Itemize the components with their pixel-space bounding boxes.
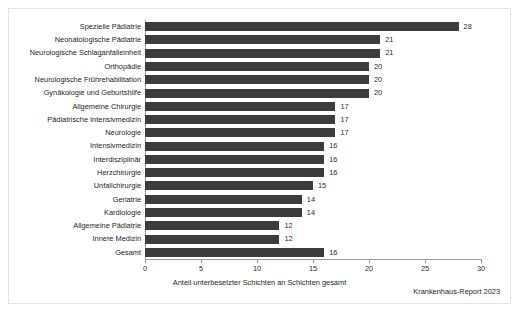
- bar-value-label: 21: [385, 49, 393, 56]
- x-axis-tick-label: 5: [199, 265, 203, 272]
- x-axis-tick-label: 20: [365, 265, 373, 272]
- x-axis-tick-label: 10: [253, 265, 261, 272]
- chart-figure: Spezielle Pädiatrie28Neonatologische Päd…: [8, 8, 511, 304]
- x-axis-tick: [257, 259, 258, 263]
- category-label: Gynäkologie und Geburtshilfe: [44, 89, 141, 96]
- category-label: Gesamt: [115, 249, 141, 256]
- category-label: Allgemeine Pädiatrie: [73, 222, 141, 229]
- bar-row: Spezielle Pädiatrie28: [145, 20, 481, 33]
- bar-value-label: 16: [329, 169, 337, 176]
- bar-row: Geriatrie14: [145, 193, 481, 206]
- x-axis-label: Anteil unterbesetzter Schichten an Schic…: [9, 279, 510, 286]
- category-label: Herzchirurgie: [97, 169, 141, 176]
- bar: [145, 128, 335, 137]
- bar-value-label: 14: [307, 209, 315, 216]
- category-label: Unfallchirurgie: [94, 182, 141, 189]
- x-axis-tick: [425, 259, 426, 263]
- bar-value-label: 17: [340, 116, 348, 123]
- bar-value-label: 12: [284, 235, 292, 242]
- x-axis-tick-label: 30: [477, 265, 485, 272]
- bar-value-label: 28: [464, 23, 472, 30]
- bar: [145, 181, 313, 190]
- bar: [145, 75, 369, 84]
- bar-row: Unfallchirurgie15: [145, 179, 481, 192]
- x-axis-tick-label: 0: [143, 265, 147, 272]
- bar-row: Intensivmedizin16: [145, 140, 481, 153]
- category-label: Kardiologie: [104, 209, 141, 216]
- category-label: Intensivmedizin: [90, 142, 141, 149]
- bar-row: Herzchirurgie16: [145, 166, 481, 179]
- category-label: Interdisziplinär: [93, 156, 141, 163]
- bar-row: Interdisziplinär16: [145, 153, 481, 166]
- bar-value-label: 17: [340, 129, 348, 136]
- bar: [145, 168, 324, 177]
- bar: [145, 35, 380, 44]
- bar-value-label: 21: [385, 36, 393, 43]
- category-label: Neurologische Schlaganfalleinheit: [30, 49, 141, 56]
- x-axis-tick: [481, 259, 482, 263]
- bar-value-label: 20: [374, 76, 382, 83]
- bar-row: Kardiologie14: [145, 206, 481, 219]
- category-label: Neurologische Frührehabilitation: [35, 76, 141, 83]
- x-axis-tick: [201, 259, 202, 263]
- bar-value-label: 16: [329, 142, 337, 149]
- bar: [145, 102, 335, 111]
- bar: [145, 142, 324, 151]
- bar-row: Allgemeine Chirurgie17: [145, 100, 481, 113]
- x-axis-tick-label: 25: [421, 265, 429, 272]
- bar-row: Innere Medizin12: [145, 232, 481, 245]
- bar: [145, 248, 324, 257]
- bar-row: Orthopädie20: [145, 60, 481, 73]
- bar: [145, 62, 369, 71]
- bar-row: Pädiatrische Intensivmedizin17: [145, 113, 481, 126]
- bar-row: Allgemeine Pädiatrie12: [145, 219, 481, 232]
- bar-row: Neonatologische Pädiatrie21: [145, 33, 481, 46]
- bar: [145, 89, 369, 98]
- bar: [145, 235, 279, 244]
- bar-value-label: 20: [374, 63, 382, 70]
- category-label: Orthopädie: [104, 63, 141, 70]
- bar-row: Gynäkologie und Geburtshilfe20: [145, 86, 481, 99]
- plot-area: Spezielle Pädiatrie28Neonatologische Päd…: [145, 20, 481, 259]
- bar: [145, 115, 335, 124]
- bar-value-label: 16: [329, 249, 337, 256]
- bar: [145, 22, 459, 31]
- bar-row: Neurologische Frührehabilitation20: [145, 73, 481, 86]
- bar-value-label: 20: [374, 89, 382, 96]
- category-label: Innere Medizin: [93, 235, 141, 242]
- bar: [145, 221, 279, 230]
- x-axis-tick-label: 15: [309, 265, 317, 272]
- bar: [145, 208, 302, 217]
- category-label: Geriatrie: [113, 196, 141, 203]
- x-axis-tick: [145, 259, 146, 263]
- category-label: Pädiatrische Intensivmedizin: [47, 116, 141, 123]
- bar-value-label: 16: [329, 156, 337, 163]
- bar-value-label: 15: [318, 182, 326, 189]
- category-label: Allgemeine Chirurgie: [72, 103, 141, 110]
- bar: [145, 155, 324, 164]
- bar-row: Neurologische Schlaganfalleinheit21: [145, 47, 481, 60]
- category-label: Neurologie: [105, 129, 141, 136]
- x-axis-tick: [313, 259, 314, 263]
- bar-value-label: 17: [340, 103, 348, 110]
- bar-row: Neurologie17: [145, 126, 481, 139]
- bar-value-label: 12: [284, 222, 292, 229]
- category-label: Neonatologische Pädiatrie: [55, 36, 141, 43]
- source-note: Krankenhaus-Report 2023: [413, 288, 500, 295]
- category-label: Spezielle Pädiatrie: [80, 23, 141, 30]
- bar: [145, 49, 380, 58]
- bar: [145, 195, 302, 204]
- bar-row: Gesamt16: [145, 246, 481, 259]
- x-axis-tick: [369, 259, 370, 263]
- bar-value-label: 14: [307, 196, 315, 203]
